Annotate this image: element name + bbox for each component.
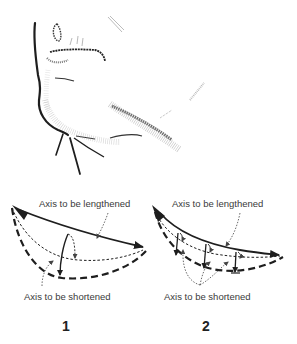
panel-1-label-lengthened: Axis to be lengthened (39, 198, 130, 209)
dashed-outer-arc-2 (155, 212, 283, 271)
leader-bottom-2a (183, 250, 200, 285)
dotted-inner-arc-2 (155, 212, 280, 257)
leader-top-2 (226, 213, 240, 246)
shortening-arrow-b (204, 244, 206, 268)
dotted-inner-arc (12, 208, 143, 260)
jaw-line-3 (74, 138, 104, 157)
shortening-arrow (60, 234, 68, 275)
panel-1-label-shortened: Axis to be shortened (24, 291, 111, 302)
panel-1-diagram (12, 205, 146, 286)
face-illustration (34, 16, 204, 174)
panel-2-label-shortened: Axis to be shortened (164, 291, 251, 302)
leader-bottom (42, 261, 53, 286)
shortening-arrow-c (235, 252, 236, 272)
leader-top (97, 213, 108, 238)
jaw-line-2 (70, 138, 80, 174)
panel-1-number: 1 (62, 318, 70, 334)
jaw-line-4 (76, 136, 95, 139)
scar-line (112, 106, 172, 140)
small-hook-arrow (68, 234, 75, 258)
panel-2-label-lengthened: Axis to be lengthened (172, 198, 263, 209)
lengthening-axis-arrow (20, 210, 143, 247)
lip-line (50, 49, 105, 61)
mentolabial-crease (55, 78, 74, 81)
panel-2-diagram (152, 205, 283, 285)
jaw-line-1 (56, 134, 63, 155)
lower-lip-shade (47, 58, 68, 62)
panel-2-number: 2 (202, 318, 210, 334)
nostril (53, 24, 61, 41)
